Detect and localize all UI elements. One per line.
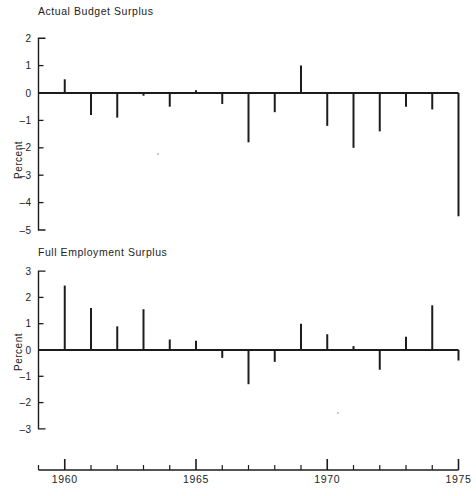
y-axis-top bbox=[39, 38, 46, 230]
paper-speck bbox=[337, 412, 339, 414]
x-axis-ticks bbox=[39, 459, 459, 470]
y-tick-label: –5 bbox=[20, 225, 32, 236]
chart-title-full-employment-surplus: Full Employment Surplus bbox=[38, 246, 167, 258]
y-tick-label: 1 bbox=[26, 60, 32, 71]
y-tick-label: –1 bbox=[20, 115, 32, 126]
y-tick-label: –3 bbox=[20, 170, 32, 181]
x-axis-label-1965: 1965 bbox=[183, 473, 209, 485]
bar-series-bottom bbox=[65, 286, 459, 385]
x-axis-label-1975: 1975 bbox=[446, 473, 472, 485]
y-tick-label: –4 bbox=[20, 197, 32, 208]
x-axis-label-1960: 1960 bbox=[52, 473, 78, 485]
chart-title-actual-budget-surplus: Actual Budget Surplus bbox=[38, 5, 153, 17]
chart-full-employment-surplus: Full Employment Surplus Percent 3210–1–2… bbox=[13, 246, 459, 435]
x-axis-label-1970: 1970 bbox=[314, 473, 340, 485]
x-axis-year-scale: 1960196519701975 bbox=[39, 459, 472, 485]
y-tick-label: –2 bbox=[20, 142, 32, 153]
chart-actual-budget-surplus: Actual Budget Surplus Percent 210–1–2–3–… bbox=[13, 5, 459, 236]
y-tick-label: –1 bbox=[20, 371, 32, 382]
y-tick-label: 0 bbox=[26, 88, 32, 99]
y-axis-label-bottom: Percent bbox=[13, 333, 24, 371]
y-tick-label: –2 bbox=[20, 397, 32, 408]
bar-series-top bbox=[65, 66, 459, 217]
x-axis-tick-labels: 1960196519701975 bbox=[52, 473, 472, 485]
y-tick-label: 2 bbox=[26, 33, 32, 44]
y-tick-label: 3 bbox=[26, 266, 32, 277]
y-tick-labels-top: 210–1–2–3–4–5 bbox=[20, 33, 32, 236]
paper-speck bbox=[157, 153, 159, 155]
y-tick-label: –3 bbox=[20, 424, 32, 435]
budget-surplus-figure: Actual Budget Surplus Percent 210–1–2–3–… bbox=[0, 0, 476, 496]
y-tick-label: 2 bbox=[26, 292, 32, 303]
y-tick-marks-top bbox=[39, 66, 44, 203]
y-tick-label: 0 bbox=[26, 345, 32, 356]
y-tick-label: 1 bbox=[26, 318, 32, 329]
figure-root: Actual Budget Surplus Percent 210–1–2–3–… bbox=[0, 0, 476, 496]
